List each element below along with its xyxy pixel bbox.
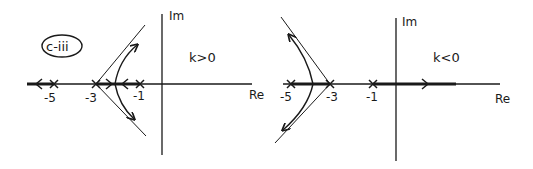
figure-label-text: c-iii [46, 39, 69, 54]
imag-axis-label: Im [402, 15, 417, 29]
pole-label: -5 [44, 91, 56, 105]
real-axis-label: Re [249, 88, 264, 102]
pole-label: -3 [85, 91, 97, 105]
pole-label: -1 [366, 90, 378, 104]
pole-label: -1 [133, 89, 145, 103]
pole-label: -5 [280, 90, 292, 104]
asymptote [281, 17, 330, 84]
pole-label: -3 [326, 90, 338, 104]
gain-condition: k>0 [189, 50, 216, 65]
root-locus-diagram: c-iii Im Re k>0 -5 -3 -1 [0, 0, 533, 169]
gain-condition: k<0 [433, 50, 460, 65]
left-plot: c-iii Im Re k>0 -5 -3 -1 [27, 9, 264, 155]
asymptote [96, 25, 145, 84]
imag-axis-label: Im [169, 9, 184, 23]
right-plot: Im Re k<0 -5 -3 -1 [275, 15, 510, 161]
figure-label: c-iii [42, 35, 82, 57]
locus-branch-upper [289, 35, 313, 84]
locus-branch-upper [115, 45, 137, 84]
real-axis-label: Re [495, 92, 510, 106]
